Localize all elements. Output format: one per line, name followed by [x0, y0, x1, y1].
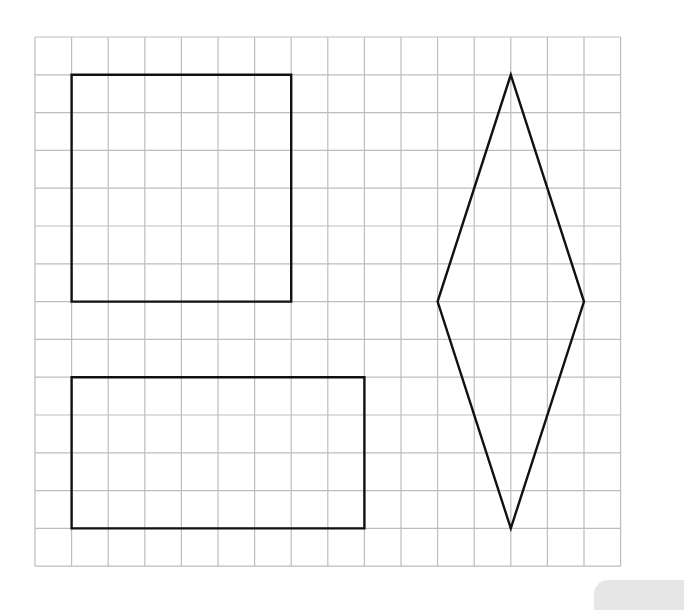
page-corner-tab: [594, 580, 684, 610]
